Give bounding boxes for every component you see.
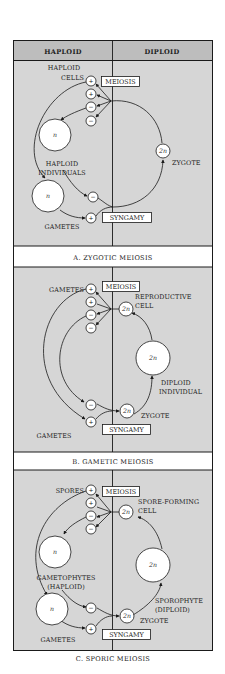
- svg-text:+: +: [88, 298, 93, 305]
- gamete-minus-bottom: −: [88, 192, 98, 202]
- label-reproductive-2: CELL: [135, 302, 154, 310]
- label-diploid-individual-2: INDIVIDUAL: [159, 388, 203, 396]
- gamete-minus-c: −: [86, 603, 96, 613]
- gamete-minus-1: −: [86, 102, 96, 112]
- spore-minus-2: −: [86, 524, 96, 534]
- svg-text:−: −: [88, 604, 93, 611]
- svg-text:+: +: [88, 285, 93, 292]
- svg-text:2n: 2n: [148, 561, 157, 568]
- svg-text:−: −: [88, 103, 93, 110]
- svg-text:2n: 2n: [121, 305, 130, 312]
- label-zygote-c: ZYGOTE: [140, 617, 169, 625]
- label-gametes-c: GAMETES: [41, 636, 76, 644]
- svg-text:n: n: [46, 192, 50, 199]
- svg-text:n: n: [53, 548, 57, 555]
- gametophyte-lower: n: [36, 593, 68, 625]
- meiosis-box-c: MEIOSIS: [103, 487, 140, 497]
- svg-text:−: −: [88, 324, 93, 331]
- spore-forming-cell-node: 2n: [119, 505, 133, 519]
- svg-text:+: +: [88, 418, 93, 425]
- gamete-minus-b1: −: [86, 310, 96, 320]
- svg-text:+: +: [88, 625, 93, 632]
- zygote-node-c: 2n: [120, 609, 134, 623]
- svg-text:SYNGAMY: SYNGAMY: [110, 214, 145, 222]
- header-haploid: HAPLOID: [44, 48, 82, 56]
- svg-text:−: −: [88, 525, 93, 532]
- gamete-plus-bottom: +: [86, 213, 96, 223]
- sporophyte-node: 2n: [136, 548, 170, 582]
- gamete-minus-b2: −: [86, 323, 96, 333]
- label-spores: SPORES: [56, 487, 84, 495]
- label-haploid-cells-2: CELLS: [61, 74, 84, 82]
- caption-sporic-meiosis: C. SPORIC MEIOSIS: [76, 655, 151, 663]
- svg-text:+: +: [88, 486, 93, 493]
- label-sporophyte-1: SPOROPHYTE: [155, 597, 203, 605]
- spore-minus-1: −: [86, 511, 96, 521]
- svg-text:2n: 2n: [122, 407, 131, 414]
- svg-text:MEIOSIS: MEIOSIS: [106, 283, 136, 291]
- label-gametes-bottom: GAMETES: [37, 432, 72, 440]
- svg-text:MEIOSIS: MEIOSIS: [106, 488, 136, 496]
- label-gametophytes-2: (HAPLOID): [47, 583, 85, 591]
- label-gametes-top: GAMETES: [49, 286, 84, 294]
- label-spore-forming-1: SPORE-FORMING: [138, 498, 199, 506]
- label-reproductive-1: REPRODUCTIVE: [135, 293, 192, 301]
- svg-text:+: +: [88, 499, 93, 506]
- caption-gametic-meiosis: B. GAMETIC MEIOSIS: [72, 458, 154, 466]
- label-sporophyte-2: (DIPLOID): [155, 606, 190, 614]
- meiosis-box-b: MEIOSIS: [103, 282, 140, 292]
- column-header: HAPLOID DIPLOID: [14, 41, 213, 61]
- syngamy-box: SYNGAMY: [103, 213, 152, 223]
- zygote-node: 2n: [156, 144, 170, 158]
- meiosis-box: MEIOSIS: [102, 77, 140, 87]
- life-cycle-diagram: HAPLOID DIPLOID A. ZYGOTIC MEIOSIS B. GA…: [0, 0, 225, 674]
- label-diploid-individual-1: DIPLOID: [161, 379, 191, 387]
- caption-zygotic-meiosis: A. ZYGOTIC MEIOSIS: [72, 254, 153, 262]
- gamete-plus-1: +: [86, 76, 96, 86]
- gamete-plus-c: +: [86, 624, 96, 634]
- label-haploid-individuals-1: HAPLOID: [46, 160, 78, 168]
- svg-text:n: n: [53, 131, 57, 138]
- gametophyte-upper: n: [39, 536, 71, 568]
- svg-text:−: −: [88, 117, 93, 124]
- svg-text:−: −: [88, 401, 93, 408]
- svg-text:+: +: [88, 214, 93, 221]
- svg-text:2n: 2n: [148, 354, 157, 361]
- reproductive-cell-node: 2n: [119, 302, 133, 316]
- svg-text:−: −: [88, 512, 93, 519]
- haploid-individual-upper: n: [39, 119, 71, 151]
- gamete-minus-2: −: [86, 116, 96, 126]
- svg-text:MEIOSIS: MEIOSIS: [105, 78, 135, 86]
- gamete-plus-b1: +: [86, 284, 96, 294]
- svg-text:−: −: [90, 193, 95, 200]
- caption-band-b: B. GAMETIC MEIOSIS: [14, 452, 213, 470]
- svg-text:2n: 2n: [121, 508, 130, 515]
- haploid-individual-lower: n: [32, 180, 64, 212]
- svg-text:SYNGAMY: SYNGAMY: [109, 426, 144, 434]
- spore-plus-2: +: [86, 498, 96, 508]
- zygote-node-b: 2n: [120, 404, 134, 418]
- diploid-individual-node: 2n: [136, 341, 170, 375]
- svg-text:+: +: [88, 77, 93, 84]
- label-haploid-individuals-2: INDIVIDUALS: [38, 169, 86, 177]
- gamete-minus-b-bottom: −: [86, 400, 96, 410]
- label-gametophytes-1: GAMETOPHYTES: [36, 574, 95, 582]
- svg-text:2n: 2n: [158, 147, 167, 154]
- syngamy-box-c: SYNGAMY: [103, 630, 151, 640]
- caption-band-a: A. ZYGOTIC MEIOSIS: [14, 246, 213, 267]
- svg-text:SYNGAMY: SYNGAMY: [109, 631, 144, 639]
- label-zygote-b: ZYGOTE: [141, 412, 170, 420]
- svg-text:−: −: [88, 311, 93, 318]
- label-haploid-cells-1: HAPLOID: [48, 64, 80, 72]
- label-zygote: ZYGOTE: [172, 159, 201, 167]
- spore-plus-1: +: [86, 485, 96, 495]
- header-diploid: DIPLOID: [144, 48, 179, 56]
- svg-text:2n: 2n: [122, 612, 131, 619]
- gamete-plus-2: +: [86, 89, 96, 99]
- label-gametes: GAMETES: [45, 223, 80, 231]
- label-spore-forming-2: CELL: [138, 507, 157, 515]
- gamete-plus-b2: +: [86, 297, 96, 307]
- svg-text:+: +: [88, 90, 93, 97]
- gamete-plus-b-bottom: +: [86, 417, 96, 427]
- syngamy-box-b: SYNGAMY: [103, 425, 151, 435]
